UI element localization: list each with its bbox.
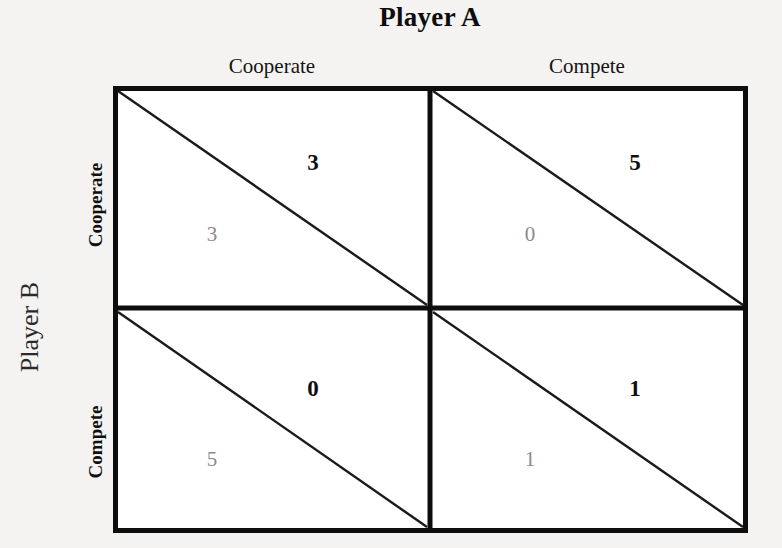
payoff-cooperate-compete-upper: 5 — [613, 151, 657, 174]
column-header-cooperate: Cooperate — [152, 54, 392, 79]
column-header-compete: Compete — [467, 54, 707, 79]
row-header-cooperate: Cooperate — [85, 120, 107, 290]
row-header-compete: Compete — [85, 357, 107, 527]
payoff-compete-compete-lower: 1 — [508, 449, 552, 470]
column-player-title: Player A — [280, 2, 580, 33]
payoff-matrix-figure: Player A Player B Cooperate Compete Coop… — [0, 0, 782, 548]
payoff-compete-cooperate-upper: 0 — [291, 377, 335, 400]
payoff-cooperate-cooperate-upper: 3 — [291, 151, 335, 174]
payoff-compete-cooperate-lower: 5 — [190, 449, 234, 470]
row-player-title: Player B — [15, 237, 45, 417]
payoff-cooperate-cooperate-lower: 3 — [190, 224, 234, 245]
payoff-compete-compete-upper: 1 — [613, 377, 657, 400]
payoff-cooperate-compete-lower: 0 — [508, 224, 552, 245]
